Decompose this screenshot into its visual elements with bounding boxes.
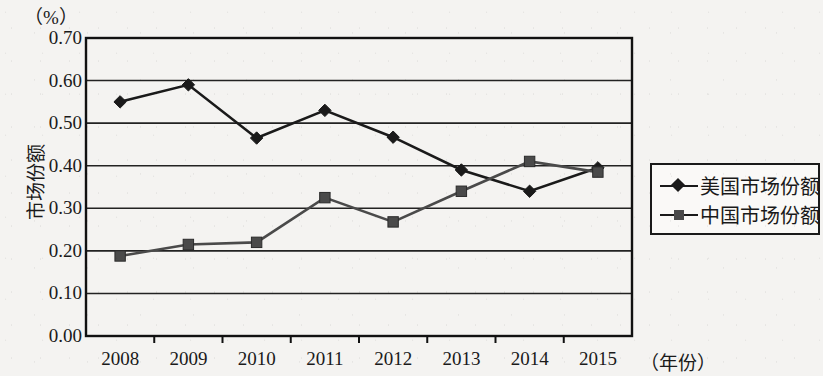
y-tick-label: 0.10 bbox=[14, 283, 82, 302]
y-tick-label: 0.70 bbox=[14, 28, 82, 47]
chart-legend: 美国市场份额 中国市场份额 bbox=[650, 163, 820, 235]
y-tick-label: 0.60 bbox=[14, 71, 82, 90]
data-point-square bbox=[593, 167, 603, 177]
plot-frame bbox=[86, 38, 632, 336]
y-axis-tick-labels: 0.700.600.500.400.300.200.100.00 bbox=[14, 0, 82, 376]
y-tick-label: 0.20 bbox=[14, 241, 82, 260]
square-marker-icon bbox=[660, 206, 698, 224]
series-line-us bbox=[120, 85, 598, 191]
y-tick-label: 0.00 bbox=[14, 326, 82, 345]
data-point-square bbox=[320, 192, 330, 202]
y-tick-label: 0.50 bbox=[14, 113, 82, 132]
legend-label-us: 美国市场份额 bbox=[700, 171, 820, 200]
data-point-diamond bbox=[319, 104, 331, 116]
legend-label-china: 中国市场份额 bbox=[700, 200, 820, 229]
legend-item-china: 中国市场份额 bbox=[660, 200, 818, 229]
market-share-line-chart: （%） 市场份额 0.700.600.500.400.300.200.100.0… bbox=[0, 0, 823, 376]
data-point-diamond bbox=[387, 131, 399, 143]
data-point-square bbox=[115, 251, 125, 261]
diamond-marker-icon bbox=[660, 177, 698, 195]
x-tick-label: 2015 bbox=[558, 348, 638, 370]
data-point-square bbox=[388, 217, 398, 227]
data-point-square bbox=[456, 186, 466, 196]
legend-item-us: 美国市场份额 bbox=[660, 171, 818, 200]
data-point-diamond bbox=[114, 96, 126, 108]
x-axis-title: （年份） bbox=[640, 348, 716, 375]
y-tick-label: 0.40 bbox=[14, 156, 82, 175]
data-point-diamond bbox=[523, 185, 535, 197]
y-tick-label: 0.30 bbox=[14, 198, 82, 217]
data-point-square bbox=[251, 237, 261, 247]
data-point-square bbox=[524, 156, 534, 166]
data-point-square bbox=[183, 239, 193, 249]
